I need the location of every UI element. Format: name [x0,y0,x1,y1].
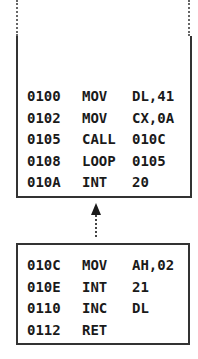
code-row: 0100MOVDL,41 [27,86,174,108]
main-block-continuation-left [16,0,18,36]
code-row: 010CMOVAH,02 [27,255,174,277]
code-row: 0110INCDL [27,298,174,320]
subroutine-code: 010CMOVAH,02 010EINT21 0110INCDL 0112RET [27,255,174,341]
main-block-continuation-right [188,0,190,36]
arrow-dotted-stem [95,215,97,237]
code-row: 010AINT20 [27,172,174,194]
main-program-code: 0100MOVDL,41 0102MOVCX,0A 0105CALL010C 0… [27,86,174,194]
code-row: 0108LOOP0105 [27,151,174,173]
code-row: 0112RET [27,320,174,342]
code-row: 0102MOVCX,0A [27,108,174,130]
code-row: 010EINT21 [27,277,174,299]
code-row: 0105CALL010C [27,129,174,151]
arrow-up-icon [91,203,101,215]
